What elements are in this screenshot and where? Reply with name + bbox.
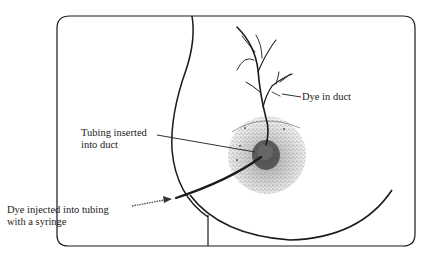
label-tubing-line-1: Tubing inserted [81,127,147,139]
breast-lower-curve [190,190,392,240]
label-tubing-line-2: into duct [81,139,147,151]
syringe-injection-arrow [132,196,172,206]
label-tubing-inserted: Tubing inserted into duct [81,127,147,151]
label-dye-in-duct-text: Dye in duct [302,91,351,102]
leader-dye-in-duct [282,94,301,97]
torso-contour [172,16,208,217]
label-dye-in-duct: Dye in duct [302,91,351,103]
label-dye-injected: Dye injected into tubing with a syringe [7,204,109,228]
label-injected-line-2: with a syringe [7,216,109,228]
label-injected-line-1: Dye injected into tubing [7,204,109,216]
